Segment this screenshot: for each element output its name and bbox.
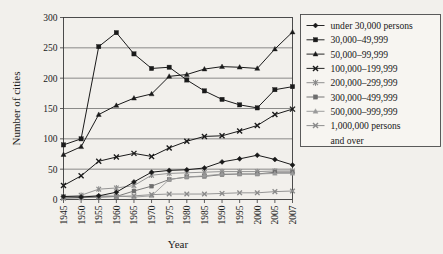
y-tick-label: 0 xyxy=(53,195,58,205)
y-axis-ticks: 050100150200250300 xyxy=(43,13,63,205)
y-axis-title: Number of cities xyxy=(10,72,22,146)
x-tick-label: 1955 xyxy=(94,205,104,224)
x-tick-label: 1945 xyxy=(59,205,69,224)
series-line xyxy=(61,29,295,156)
x-tick-label: 1995 xyxy=(235,205,245,224)
x-axis-title: Year xyxy=(168,238,189,250)
x-tick-label: 1965 xyxy=(129,205,139,224)
x-tick-label: 2005 xyxy=(270,205,280,224)
legend-marker-square-icon xyxy=(313,38,317,42)
legend-label: 200,000–299,999 xyxy=(331,77,398,88)
x-tick-label: 1975 xyxy=(165,205,175,224)
legend-label: 30,000–49,999 xyxy=(331,34,389,45)
legend-item[interactable]: and over xyxy=(331,135,365,146)
x-tick-label: 2007 xyxy=(288,205,298,224)
legend-label: 50,000–99,999 xyxy=(331,49,389,60)
chart-figure: 050100150200250300 194519501955196019651… xyxy=(0,0,443,254)
x-tick-label: 1980 xyxy=(182,205,192,224)
y-tick-label: 250 xyxy=(43,43,58,53)
legend-label: under 30,000 persons xyxy=(331,20,414,31)
y-tick-label: 300 xyxy=(43,13,58,23)
legend-label: 300,000–499,999 xyxy=(331,92,398,103)
line-chart-svg: 050100150200250300 194519501955196019651… xyxy=(0,0,443,254)
x-tick-label: 1985 xyxy=(200,205,210,224)
x-tick-label: 1970 xyxy=(147,205,157,224)
data-series-layer xyxy=(61,29,295,200)
legend-label: and over xyxy=(331,135,365,146)
x-axis-ticks: 1945195019551960196519701975198019851990… xyxy=(59,200,298,225)
legend-marker-square-icon xyxy=(313,95,317,99)
legend-label: 500,000–999,999 xyxy=(331,106,398,117)
legend-label: 100,000–199,999 xyxy=(331,63,398,74)
legend-label: 1,000,000 persons xyxy=(331,120,401,131)
x-tick-label: 1950 xyxy=(77,205,87,224)
x-tick-label: 2000 xyxy=(253,205,263,224)
x-tick-label: 1960 xyxy=(112,205,122,224)
y-tick-label: 100 xyxy=(43,134,58,144)
y-tick-label: 150 xyxy=(43,104,58,114)
x-tick-label: 1990 xyxy=(217,205,227,224)
y-tick-label: 50 xyxy=(48,165,58,175)
y-tick-label: 200 xyxy=(43,74,58,84)
